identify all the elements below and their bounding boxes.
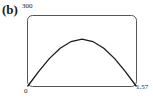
plot-frame	[28, 16, 137, 87]
data-curve	[28, 39, 137, 86]
chart-plot	[0, 0, 153, 98]
